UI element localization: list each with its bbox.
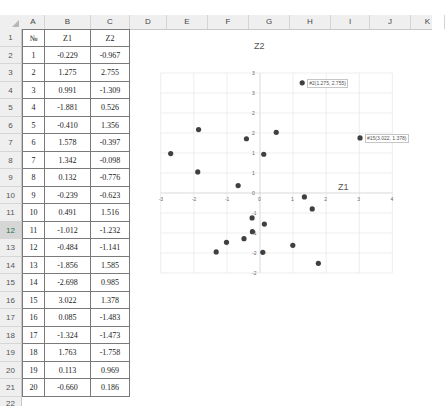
table-cell[interactable]: 20 bbox=[22, 379, 45, 397]
column-header-h[interactable]: H bbox=[290, 15, 331, 29]
table-cell[interactable]: 2.755 bbox=[91, 64, 130, 82]
column-header-d[interactable]: D bbox=[130, 15, 167, 29]
row-header-9[interactable]: 9 bbox=[0, 169, 22, 187]
row-header-19[interactable]: 19 bbox=[0, 344, 22, 362]
table-cell[interactable]: -0.660 bbox=[45, 379, 91, 397]
table-cell[interactable]: 2 bbox=[22, 64, 45, 82]
select-all-corner[interactable] bbox=[0, 15, 22, 29]
row-header-2[interactable]: 2 bbox=[0, 47, 22, 65]
table-cell[interactable]: -1.483 bbox=[91, 309, 130, 327]
table-cell[interactable]: 16 bbox=[22, 309, 45, 327]
column-header-j[interactable]: J bbox=[370, 15, 411, 29]
table-cell[interactable]: -1.473 bbox=[91, 327, 130, 345]
row-header-17[interactable]: 17 bbox=[0, 309, 22, 327]
table-cell[interactable]: 0.969 bbox=[91, 362, 130, 380]
table-cell[interactable]: -0.098 bbox=[91, 152, 130, 170]
row-header-15[interactable]: 15 bbox=[0, 274, 22, 292]
table-cell[interactable]: -1.758 bbox=[91, 344, 130, 362]
table-cell[interactable]: 1 bbox=[22, 47, 45, 65]
column-header-e[interactable]: E bbox=[167, 15, 208, 29]
table-cell[interactable]: 3 bbox=[22, 82, 45, 100]
table-cell[interactable]: 1.275 bbox=[45, 64, 91, 82]
data-label: #2(1.275, 2.755) bbox=[307, 79, 348, 88]
column-header-i[interactable]: I bbox=[331, 15, 370, 29]
row-header-4[interactable]: 4 bbox=[0, 82, 22, 100]
table-cell[interactable]: -1.012 bbox=[45, 222, 91, 240]
table-cell[interactable]: -1.881 bbox=[45, 99, 91, 117]
table-cell[interactable]: -0.776 bbox=[91, 169, 130, 187]
table-cell[interactable]: 5 bbox=[22, 117, 45, 135]
table-cell[interactable]: 0.132 bbox=[45, 169, 91, 187]
row-header-20[interactable]: 20 bbox=[0, 362, 22, 380]
table-cell[interactable]: 3.022 bbox=[45, 292, 91, 310]
x-tick-label: 0 bbox=[258, 196, 261, 202]
header-cell-a[interactable]: № bbox=[22, 29, 45, 47]
table-cell[interactable]: -1.232 bbox=[91, 222, 130, 240]
row-header-16[interactable]: 16 bbox=[0, 292, 22, 310]
table-cell[interactable]: 1.763 bbox=[45, 344, 91, 362]
column-header-b[interactable]: B bbox=[45, 15, 91, 29]
table-cell[interactable]: 1.342 bbox=[45, 152, 91, 170]
row-header-8[interactable]: 8 bbox=[0, 152, 22, 170]
row-header-10[interactable]: 10 bbox=[0, 187, 22, 205]
table-cell[interactable]: 13 bbox=[22, 257, 45, 275]
column-header-f[interactable]: F bbox=[208, 15, 249, 29]
table-cell[interactable]: 1.378 bbox=[91, 292, 130, 310]
header-cell-b[interactable]: Z1 bbox=[45, 29, 91, 47]
table-cell[interactable]: 1.516 bbox=[91, 204, 130, 222]
row-header-12[interactable]: 12 bbox=[0, 222, 22, 240]
table-cell[interactable]: 9 bbox=[22, 187, 45, 205]
column-header-a[interactable]: A bbox=[22, 15, 45, 29]
table-cell[interactable]: -2.698 bbox=[45, 274, 91, 292]
table-cell[interactable]: 0.985 bbox=[91, 274, 130, 292]
table-cell[interactable]: -0.397 bbox=[91, 134, 130, 152]
row-header-5[interactable]: 5 bbox=[0, 99, 22, 117]
table-cell[interactable]: 0.085 bbox=[45, 309, 91, 327]
table-cell[interactable]: -0.239 bbox=[45, 187, 91, 205]
table-cell[interactable]: 0.991 bbox=[45, 82, 91, 100]
row-header-11[interactable]: 11 bbox=[0, 204, 22, 222]
row-header-18[interactable]: 18 bbox=[0, 327, 22, 345]
table-cell[interactable]: -0.410 bbox=[45, 117, 91, 135]
row-header-14[interactable]: 14 bbox=[0, 257, 22, 275]
table-cell[interactable]: 0.526 bbox=[91, 99, 130, 117]
row-header-22[interactable]: 22 bbox=[0, 397, 22, 406]
table-cell[interactable]: -1.141 bbox=[91, 239, 130, 257]
table-cell[interactable]: 0.113 bbox=[45, 362, 91, 380]
table-cell[interactable]: 11 bbox=[22, 222, 45, 240]
scatter-chart[interactable]: Z2 Z1 -3-2-1012343322110-1-1-2-2#2(1.275… bbox=[148, 30, 439, 309]
row-header-1[interactable]: 1 bbox=[0, 29, 22, 47]
table-cell[interactable]: -0.623 bbox=[91, 187, 130, 205]
table-cell[interactable]: -0.967 bbox=[91, 47, 130, 65]
row-header-7[interactable]: 7 bbox=[0, 134, 22, 152]
column-header-c[interactable]: C bbox=[91, 15, 130, 29]
row-header-21[interactable]: 21 bbox=[0, 379, 22, 397]
table-cell[interactable]: -1.324 bbox=[45, 327, 91, 345]
table-cell[interactable]: 0.186 bbox=[91, 379, 130, 397]
table-cell[interactable]: -1.856 bbox=[45, 257, 91, 275]
table-cell[interactable]: 7 bbox=[22, 152, 45, 170]
table-cell[interactable]: 18 bbox=[22, 344, 45, 362]
table-cell[interactable]: 0.491 bbox=[45, 204, 91, 222]
column-header-g[interactable]: G bbox=[249, 15, 290, 29]
table-cell[interactable]: 4 bbox=[22, 99, 45, 117]
table-cell[interactable]: 15 bbox=[22, 292, 45, 310]
table-cell[interactable]: 17 bbox=[22, 327, 45, 345]
row-header-3[interactable]: 3 bbox=[0, 64, 22, 82]
table-cell[interactable]: 1.578 bbox=[45, 134, 91, 152]
table-cell[interactable]: -0.484 bbox=[45, 239, 91, 257]
table-cell[interactable]: 1.585 bbox=[91, 257, 130, 275]
table-cell[interactable]: 14 bbox=[22, 274, 45, 292]
row-header-13[interactable]: 13 bbox=[0, 239, 22, 257]
table-cell[interactable]: 12 bbox=[22, 239, 45, 257]
table-cell[interactable]: 19 bbox=[22, 362, 45, 380]
table-cell[interactable]: -0.229 bbox=[45, 47, 91, 65]
table-cell[interactable]: 8 bbox=[22, 169, 45, 187]
column-header-k[interactable]: K bbox=[411, 15, 445, 29]
table-cell[interactable]: 10 bbox=[22, 204, 45, 222]
header-cell-c[interactable]: Z2 bbox=[91, 29, 130, 47]
table-cell[interactable]: 1.356 bbox=[91, 117, 130, 135]
table-cell[interactable]: -1.309 bbox=[91, 82, 130, 100]
row-header-6[interactable]: 6 bbox=[0, 117, 22, 135]
table-cell[interactable]: 6 bbox=[22, 134, 45, 152]
